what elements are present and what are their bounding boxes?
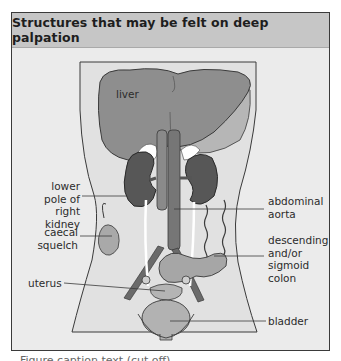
uterus	[150, 284, 182, 300]
label-lower-pole-right-kidney: lower pole of right kidney	[20, 180, 80, 230]
label-caecal-squelch: caecal squelch	[20, 226, 78, 251]
label-uterus: uterus	[28, 277, 62, 290]
vena-cava	[157, 130, 167, 210]
label-abdominal-aorta: abdominal aorta	[268, 195, 323, 220]
label-descending-sigmoid-colon: descending and/or sigmoid colon	[268, 234, 328, 284]
caecum	[98, 225, 119, 255]
label-bladder: bladder	[268, 315, 308, 328]
abdominal-aorta	[168, 130, 180, 250]
left-ovary	[182, 276, 190, 284]
bladder	[142, 300, 190, 336]
figure-caption-cutoff: Figure caption text (cut off)	[20, 354, 330, 361]
label-liver: liver	[116, 88, 139, 101]
right-ovary	[142, 276, 150, 284]
